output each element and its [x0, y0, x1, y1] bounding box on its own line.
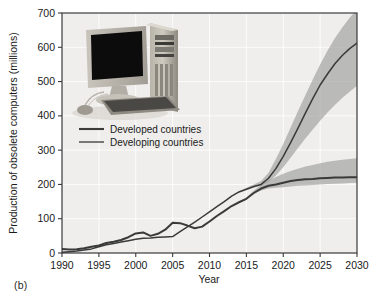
- legend-label-developed: Developed countries: [110, 124, 201, 135]
- desktop-computer-photo: [72, 23, 180, 120]
- obsolete-computers-line-chart: 0100200300400500600700 19901995200020052…: [0, 0, 387, 304]
- x-tick-label: 2005: [161, 259, 185, 271]
- figure-caption: (b): [14, 279, 27, 291]
- y-axis-ticks: 0100200300400500600700: [37, 7, 62, 259]
- x-tick-label: 2020: [272, 259, 296, 271]
- figure-panel: 0100200300400500600700 19901995200020052…: [0, 0, 387, 304]
- y-tick-label: 600: [37, 41, 55, 53]
- y-tick-label: 400: [37, 109, 55, 121]
- x-tick-label: 2000: [124, 259, 148, 271]
- y-axis-title: Production of obsolete computers (millio…: [7, 32, 19, 233]
- x-tick-label: 2010: [198, 259, 222, 271]
- x-tick-label: 2015: [235, 259, 259, 271]
- x-tick-label: 1990: [50, 259, 74, 271]
- y-tick-label: 300: [37, 144, 55, 156]
- x-tick-label: 1995: [87, 259, 111, 271]
- y-tick-label: 100: [37, 212, 55, 224]
- y-tick-label: 700: [37, 7, 55, 19]
- y-tick-label: 0: [49, 247, 55, 259]
- x-tick-label: 2025: [308, 259, 332, 271]
- x-axis-title: Year: [198, 273, 220, 285]
- legend-label-developing: Developing countries: [110, 137, 203, 148]
- y-tick-label: 500: [37, 75, 55, 87]
- y-tick-label: 200: [37, 178, 55, 190]
- x-axis-ticks: 199019952000200520102015202020252030: [50, 253, 369, 271]
- x-tick-label: 2030: [345, 259, 369, 271]
